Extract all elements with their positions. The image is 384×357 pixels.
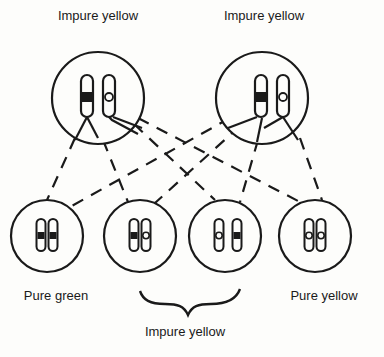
- parent-left-label: Impure yellow: [58, 8, 138, 23]
- line-left-to-o3: [134, 124, 215, 200]
- parent-left-cell: [52, 52, 144, 144]
- line-right-to-o4: [300, 138, 322, 200]
- line-left-to-o2: [103, 140, 128, 202]
- offspring-4-cell: [279, 200, 351, 272]
- offspring-2-cell: [104, 200, 176, 272]
- offspring-1-label: Pure green: [24, 288, 88, 303]
- parent-right-cell: [216, 52, 308, 144]
- parent-right-label: Impure yellow: [224, 8, 304, 23]
- group-label: Impure yellow: [145, 324, 225, 339]
- cross-diagram: [0, 0, 384, 357]
- line-right-to-o2: [155, 126, 240, 203]
- offspring-4-label: Pure yellow: [290, 288, 357, 303]
- offspring-3-cell: [189, 200, 261, 272]
- grouping-brace: [140, 289, 240, 315]
- line-right-to-o3: [240, 140, 258, 202]
- offspring-1-cell: [11, 200, 83, 272]
- line-left-to-o1: [47, 138, 75, 200]
